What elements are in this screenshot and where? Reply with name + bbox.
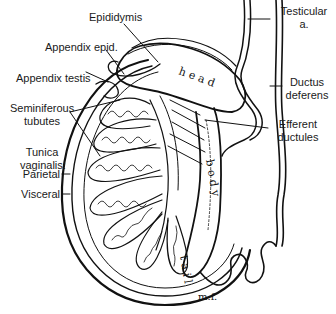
- label-efferent-line2: ductules: [272, 131, 324, 144]
- head-inline-label: h e a d: [177, 65, 217, 90]
- label-ductus-deferens: Ductus deferens: [282, 76, 332, 102]
- label-efferent-ductules: Efferent ductules: [272, 118, 324, 144]
- label-epididymis: Epididymis: [89, 11, 142, 24]
- label-testicular-line1: Testicular: [276, 5, 332, 18]
- signature-label: m.f.: [198, 291, 217, 302]
- body-inline-label: b o d y: [203, 158, 222, 198]
- label-parietal: Parietal: [14, 168, 60, 181]
- label-seminiferous-line2: tubutes: [10, 115, 74, 128]
- label-ductus-line2: deferens: [282, 89, 332, 102]
- label-testicular-artery: Testicular a.: [276, 5, 332, 31]
- anatomy-diagram: h e a d b o d y t a i l m.f. Epididymis …: [0, 0, 336, 314]
- label-seminiferous-line1: Seminiferous: [10, 102, 74, 115]
- label-appendix-testis: Appendix testis: [16, 72, 91, 85]
- label-visceral: Visceral: [10, 188, 60, 201]
- label-ductus-line1: Ductus: [282, 76, 332, 89]
- tail-inline-label: t a i l: [177, 254, 195, 285]
- label-tunica-line1: Tunica: [20, 146, 64, 159]
- label-seminiferous-tubules: Seminiferous tubutes: [10, 102, 74, 128]
- label-appendix-epididymis: Appendix epid.: [45, 41, 118, 54]
- label-efferent-line1: Efferent: [272, 118, 324, 131]
- label-testicular-line2: a.: [276, 18, 332, 31]
